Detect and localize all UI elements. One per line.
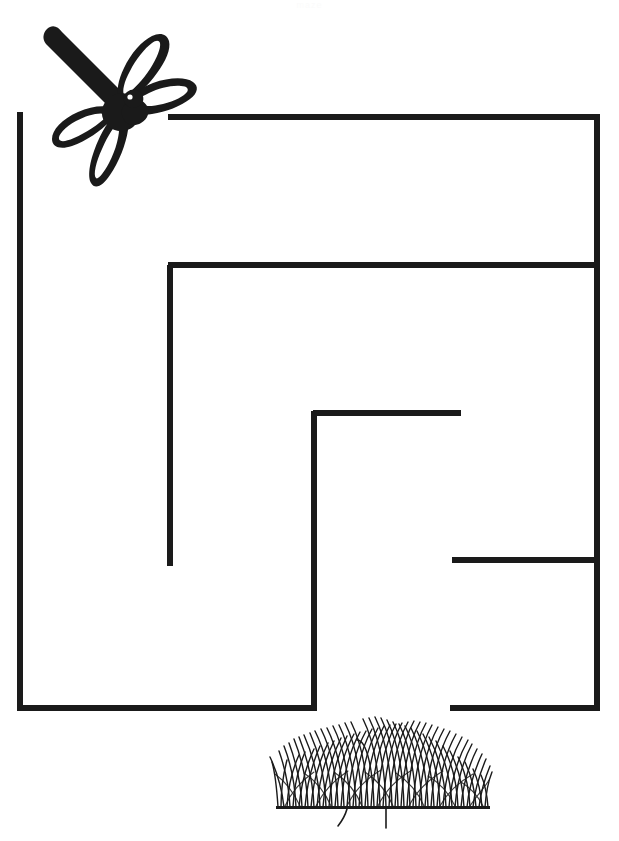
dragonfly-icon (43, 26, 196, 186)
grass-icon (270, 717, 492, 828)
maze-page: maze (0, 0, 619, 841)
maze-canvas (0, 0, 619, 841)
maze-wall-group (17, 112, 600, 711)
